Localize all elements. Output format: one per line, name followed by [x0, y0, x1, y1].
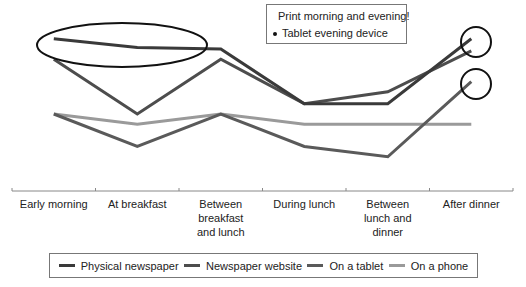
legend-label: On a tablet [329, 260, 383, 272]
bullet-icon [273, 32, 277, 36]
annotation-item: Tablet evening device [273, 25, 406, 42]
legend-swatch-icon [184, 264, 200, 267]
legend-item-physical-newspaper[interactable]: Physical newspaper [59, 260, 179, 272]
highlight-circle-after-dinner-tablet [461, 69, 491, 99]
series-lines [54, 39, 472, 157]
annotation-box: Print morning and evening! Tablet evenin… [266, 4, 407, 44]
legend-label: On a phone [411, 260, 469, 272]
legend-swatch-icon [307, 264, 323, 267]
legend-label: Newspaper website [206, 260, 302, 272]
annotation-text: Tablet evening device [282, 25, 388, 42]
series-line-on-a-phone [54, 114, 472, 124]
legend-label: Physical newspaper [81, 260, 179, 272]
x-axis-label: During lunch [262, 197, 346, 211]
x-axis-label: Betweenbreakfastand lunch [179, 197, 263, 239]
annotation-text: Print morning and evening! [278, 8, 409, 25]
legend-item-on-a-phone[interactable]: On a phone [389, 260, 469, 272]
annotation-item: Print morning and evening! [273, 8, 406, 25]
series-line-physical-newspaper [54, 39, 472, 104]
x-axis-label: After dinner [429, 197, 513, 211]
x-axis [12, 188, 513, 191]
legend-item-newspaper-website[interactable]: Newspaper website [184, 260, 302, 272]
x-axis-label: At breakfast [95, 197, 179, 211]
chart-legend: Physical newspaper Newspaper website On … [49, 253, 478, 278]
legend-item-on-a-tablet[interactable]: On a tablet [307, 260, 383, 272]
legend-swatch-icon [59, 264, 75, 267]
line-chart [0, 0, 526, 287]
series-line-newspaper-website [54, 51, 472, 114]
x-axis-label: Betweenlunch anddinner [346, 197, 430, 239]
x-axis-label: Early morning [12, 197, 96, 211]
annotation-shapes [37, 23, 491, 99]
legend-swatch-icon [389, 264, 405, 267]
